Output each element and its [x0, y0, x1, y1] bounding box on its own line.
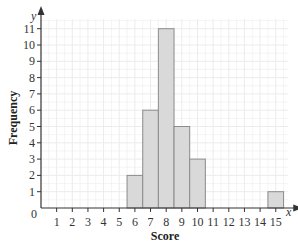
y-tick-label: 7: [29, 87, 35, 101]
x-tick-label: 10: [192, 215, 204, 229]
x-axis-variable: x: [285, 205, 292, 219]
y-tick-label: 9: [29, 54, 35, 68]
x-tick-label: 14: [254, 215, 266, 229]
x-tick-label: 11: [207, 215, 219, 229]
y-tick-label: 4: [29, 136, 35, 150]
x-tick-label: 2: [69, 215, 75, 229]
histogram-chart: 1234567891011121314151234567891011 Score…: [0, 0, 298, 249]
x-tick-label: 1: [54, 215, 60, 229]
histogram-bar-score-8: [158, 29, 174, 208]
y-tick-label: 11: [23, 22, 35, 36]
origin-label: 0: [31, 207, 37, 221]
y-axis-variable: y: [30, 9, 37, 23]
y-tick-label: 5: [29, 120, 35, 134]
histogram-bar-score-9: [174, 127, 190, 209]
x-tick-label: 13: [238, 215, 250, 229]
x-tick-label: 6: [132, 215, 138, 229]
histogram-bar-score-7: [143, 110, 159, 208]
x-tick-label: 7: [148, 215, 154, 229]
histogram-bar-score-6: [127, 175, 143, 208]
y-axis-arrow-icon: [38, 6, 45, 15]
y-tick-label: 6: [29, 103, 35, 117]
x-axis-title: Score: [151, 229, 180, 243]
histogram-bar-score-10: [190, 159, 206, 208]
y-axis-title: Frequency: [6, 91, 20, 145]
y-tick-label: 3: [29, 152, 35, 166]
x-axis-arrow-icon: [293, 205, 298, 212]
x-tick-label: 8: [163, 215, 169, 229]
x-tick-label: 5: [116, 215, 122, 229]
y-tick-label: 8: [29, 71, 35, 85]
histogram-bar-score-15: [268, 192, 284, 208]
x-tick-label: 9: [179, 215, 185, 229]
y-tick-label: 2: [29, 168, 35, 182]
x-tick-label: 4: [101, 215, 107, 229]
y-tick-label: 1: [29, 185, 35, 199]
x-tick-label: 3: [85, 215, 91, 229]
y-tick-label: 10: [23, 38, 35, 52]
x-tick-label: 15: [270, 215, 282, 229]
x-tick-label: 12: [223, 215, 235, 229]
